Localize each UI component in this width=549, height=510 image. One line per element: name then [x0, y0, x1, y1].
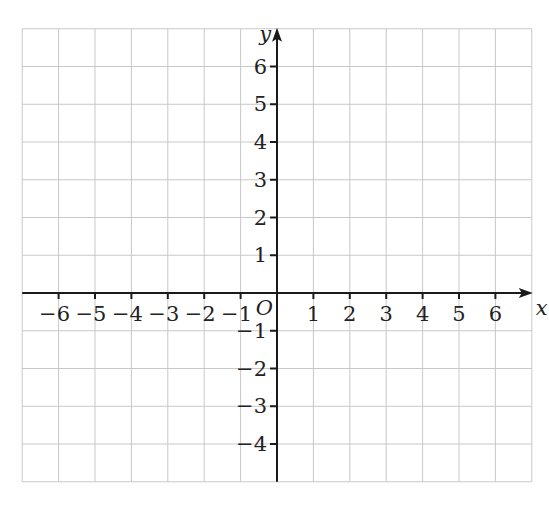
y-tick-label: 4 — [254, 130, 267, 154]
y-tick-label: −4 — [236, 432, 267, 456]
tick-labels: −6−5−4−3−2−1123456−4−3−2−1123456xyO — [39, 22, 548, 456]
x-tick-label: 5 — [452, 302, 465, 326]
y-tick-label: 6 — [254, 55, 267, 79]
y-tick-label: 1 — [254, 243, 267, 267]
x-axis-label: x — [536, 296, 548, 320]
y-tick-label: 5 — [254, 92, 267, 116]
x-tick-label: −6 — [39, 302, 70, 326]
x-tick-label: 4 — [416, 302, 429, 326]
coordinate-plane: −6−5−4−3−2−1123456−4−3−2−1123456xyO — [0, 0, 549, 510]
x-tick-label: 3 — [380, 302, 393, 326]
x-tick-label: 1 — [307, 302, 320, 326]
x-tick-label: −4 — [112, 302, 143, 326]
y-tick-label: −3 — [236, 394, 267, 418]
x-tick-label: −2 — [185, 302, 216, 326]
x-tick-label: 2 — [343, 302, 356, 326]
y-tick-label: 3 — [254, 168, 267, 192]
x-tick-label: 6 — [489, 302, 502, 326]
x-tick-label: −3 — [148, 302, 179, 326]
y-tick-label: −2 — [236, 357, 267, 381]
x-tick-label: −5 — [76, 302, 107, 326]
y-tick-label: 2 — [254, 206, 267, 230]
origin-label: O — [256, 296, 273, 320]
y-axis-label: y — [258, 22, 272, 46]
y-tick-label: −1 — [236, 319, 267, 343]
